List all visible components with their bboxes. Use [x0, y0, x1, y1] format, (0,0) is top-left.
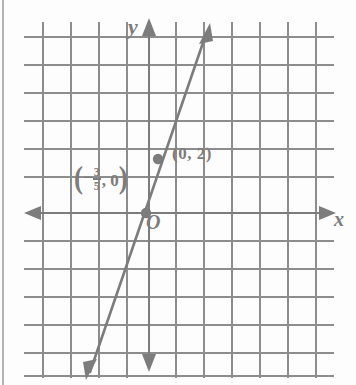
y-axis-label: y [128, 14, 138, 40]
y-axis-arrow-up [142, 18, 156, 36]
y-axis-arrow-down [142, 354, 156, 372]
point-y-intercept [153, 154, 163, 164]
x-axis-label: x [334, 208, 344, 231]
x-intercept-minus-sign: − [83, 168, 93, 188]
fraction-denominator: 5 [93, 180, 101, 192]
x-intercept-comma-zero: , 0 [102, 171, 119, 191]
x-intercept-open-paren: ( [74, 166, 83, 191]
x-axis-arrow-left [24, 206, 41, 220]
y-intercept-annotation: (0, 2) [172, 144, 212, 164]
fraction-numerator: 3 [93, 166, 101, 178]
x-intercept-annotation: ( − 3 5 , 0 ) [74, 166, 128, 192]
line-arrow-lower-left [83, 359, 97, 380]
coordinate-plane [0, 0, 356, 385]
origin-label: O [146, 211, 160, 234]
x-intercept-close-paren: ) [119, 166, 128, 191]
graph-figure: y x O (0, 2) ( − 3 5 , 0 ) [0, 0, 356, 385]
y-axis [142, 18, 156, 372]
x-intercept-fraction: 3 5 [93, 166, 101, 192]
line-arrow-upper-right [199, 23, 213, 44]
